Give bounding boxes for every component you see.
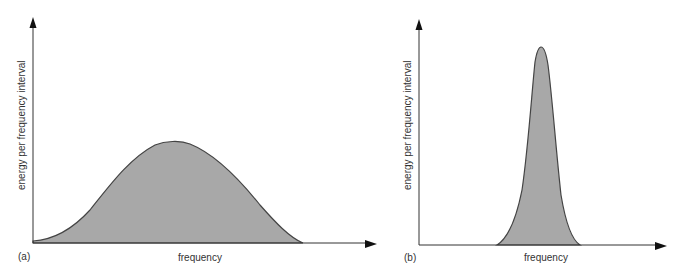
- y-axis-arrow-icon: [416, 19, 423, 30]
- curve-b-area: [497, 47, 580, 245]
- x-axis-arrow-icon: [655, 242, 667, 250]
- panel-tag-b: (b): [404, 252, 416, 263]
- panel-tag-a: (a): [18, 251, 30, 262]
- curve-a-area: [33, 141, 303, 243]
- ylabel-b: energy per frequency interval: [402, 60, 413, 190]
- panel-b: energy per frequency interval frequency …: [402, 19, 667, 263]
- xlabel-a: frequency: [178, 252, 222, 263]
- figure: energy per frequency interval frequency …: [0, 0, 685, 278]
- ylabel-a: energy per frequency interval: [16, 60, 27, 190]
- panel-a: energy per frequency interval frequency …: [16, 17, 377, 263]
- x-axis-arrow-icon: [365, 240, 377, 248]
- xlabel-b: frequency: [524, 252, 568, 263]
- y-axis-arrow-icon: [30, 17, 37, 28]
